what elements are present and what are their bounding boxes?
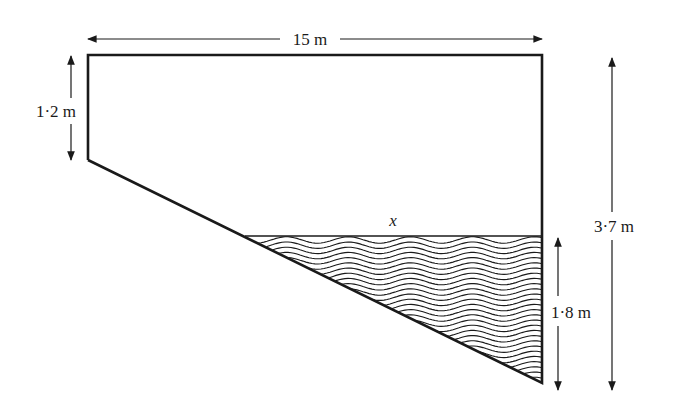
left-depth-dimension: 1·2 m bbox=[36, 56, 76, 160]
top-width-dimension: 15 m bbox=[88, 30, 542, 49]
top-width-label: 15 m bbox=[293, 30, 327, 49]
water-depth-label: 1·8 m bbox=[551, 303, 591, 322]
pool-outline bbox=[88, 55, 542, 383]
total-depth-dimension: 3·7 m bbox=[594, 58, 634, 390]
water-surface-width-label: x bbox=[388, 211, 397, 230]
water-depth-dimension: 1·8 m bbox=[551, 238, 591, 390]
water-region bbox=[240, 237, 546, 389]
left-depth-label: 1·2 m bbox=[36, 102, 76, 121]
pool-diagram: 15 m 1·2 m 3·7 m 1·8 m x bbox=[0, 0, 674, 412]
total-depth-label: 3·7 m bbox=[594, 217, 634, 236]
